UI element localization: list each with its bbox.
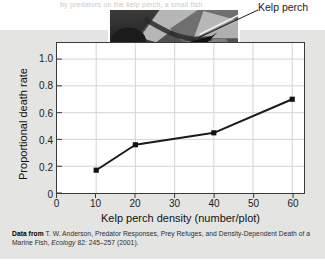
x-tick-label-6: 60 bbox=[278, 198, 308, 209]
plot-area bbox=[56, 42, 305, 194]
y-axis-title: Proportional death rate bbox=[17, 54, 29, 194]
y-tick-marks bbox=[57, 59, 62, 193]
source-caption: Data from T. W. Anderson, Predator Respo… bbox=[12, 229, 312, 248]
x-axis-title: Kelp perch density (number/plot) bbox=[56, 212, 305, 224]
x-tick-label-1: 10 bbox=[81, 198, 111, 209]
kelp-perch-callout-label: Kelp perch bbox=[258, 1, 308, 13]
data-line bbox=[96, 99, 292, 170]
gridlines-horizontal bbox=[57, 59, 304, 166]
x-tick-label-3: 30 bbox=[160, 198, 190, 209]
x-tick-label-2: 20 bbox=[120, 198, 150, 209]
caption-lead: Data from bbox=[12, 230, 44, 237]
figure-root: by predators on the kelp perch, a small … bbox=[0, 0, 325, 267]
x-tick-label-4: 40 bbox=[199, 198, 229, 209]
plot-inner bbox=[57, 43, 304, 193]
data-markers bbox=[94, 97, 295, 173]
gridlines-vertical bbox=[96, 43, 292, 193]
caption-journal: Ecology bbox=[51, 239, 75, 246]
caption-tail: 82: 245–257 (2001). bbox=[75, 239, 138, 246]
x-tick-label-0: 0 bbox=[42, 198, 72, 209]
chart-svg bbox=[57, 43, 304, 193]
x-tick-label-5: 50 bbox=[239, 198, 269, 209]
